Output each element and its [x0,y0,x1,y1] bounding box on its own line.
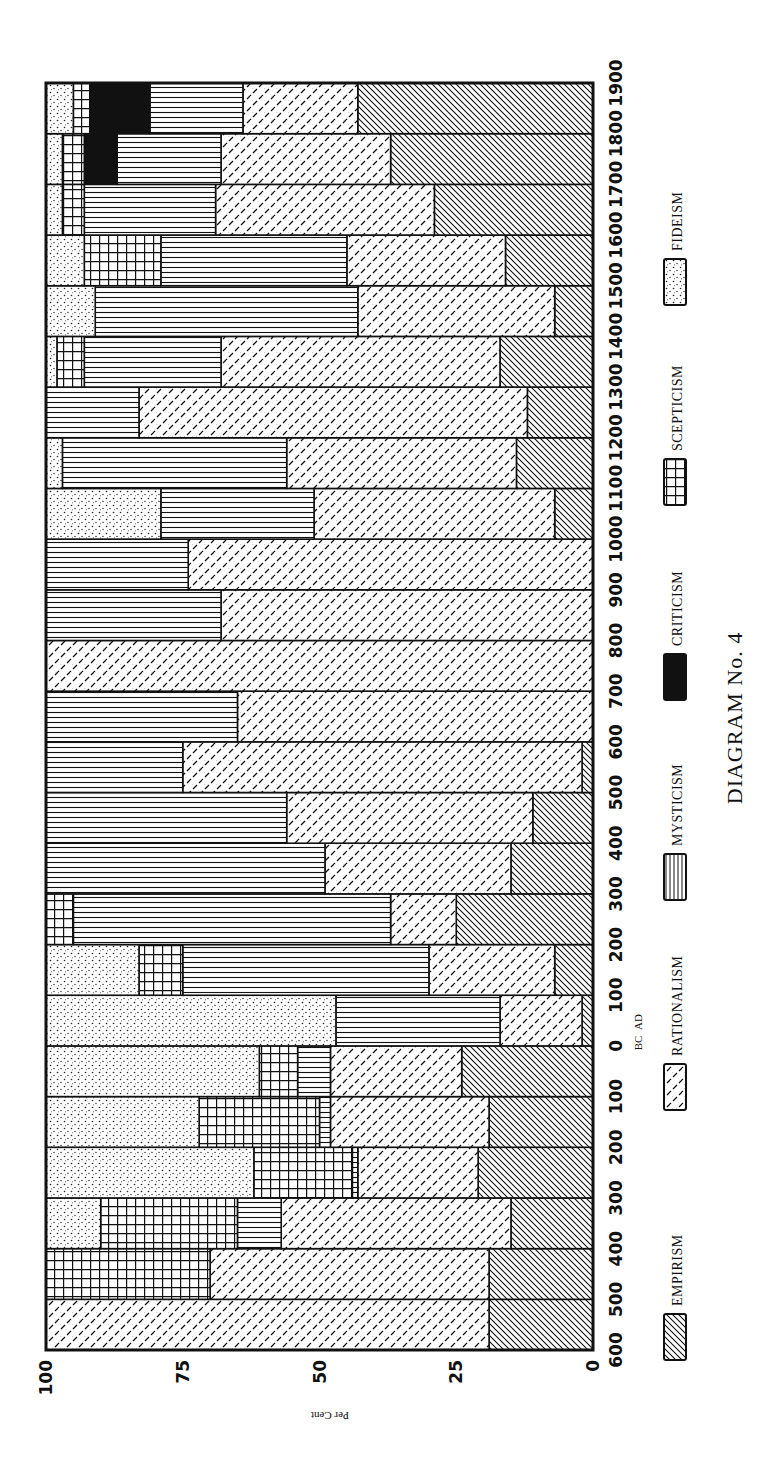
bar-segment-empirism [434,184,593,235]
bar-segment-fideism [46,995,336,1046]
century-tick-label: 900 [606,572,626,608]
bar-segment-fideism [46,1147,254,1198]
bar-segment-fideism [46,945,139,996]
legend-swatch [664,1064,686,1110]
bar-row [46,539,593,590]
bar-segment-rationalism [46,640,593,691]
century-tick-label: 500 [606,775,626,811]
century-tick-label: 1000 [606,515,626,562]
bar-segment-rationalism [237,691,593,742]
bar-segment-rationalism [188,539,593,590]
legend-item-mysticism: MYSTICISM [664,764,686,900]
bar-segment-criticism [90,83,150,134]
bar-segment-rationalism [347,235,506,286]
century-tick-label: 1500 [606,262,626,309]
bar-segment-empirism [489,1097,593,1148]
bar-segment-rationalism [287,793,533,844]
bar-segment-mysticism [46,539,188,590]
bar-segment-scepticism [139,945,183,996]
bar-segment-rationalism [46,1299,489,1350]
legend-label: CRITICISM [670,571,685,646]
bar-segment-empirism [489,1299,593,1350]
bar-row [46,83,593,134]
bar-segment-fideism [46,336,57,387]
percent-tick-label: 50 [310,1360,330,1384]
bar-row [46,488,593,539]
bar-segment-mysticism [150,83,243,134]
bar-segment-empirism [582,995,593,1046]
bar-row [46,590,593,641]
bar-segment-empirism [582,742,593,793]
bar-segment-empirism [358,83,593,134]
bar-segment-mysticism [46,387,139,438]
bar-segment-rationalism [429,945,555,996]
bar-row [46,843,593,894]
bar-segment-scepticism [62,184,84,235]
century-tick-label: 200 [606,927,626,963]
bar-row [46,286,593,337]
bar-segment-empirism [511,1198,593,1249]
bar-segment-scepticism [73,83,89,134]
diagram-chart: 6005004003002001000100200300400500600700… [0,0,778,1457]
bar-segment-mysticism [161,235,347,286]
bar-segment-fideism [46,83,73,134]
century-tick-label: 700 [606,673,626,709]
percent-tick-label: 75 [173,1360,193,1384]
bar-segment-fideism [46,286,95,337]
bar-row [46,235,593,286]
bar-segment-rationalism [210,1249,489,1300]
bar-segment-rationalism [243,83,358,134]
bar-segment-scepticism [46,1249,210,1300]
bar-row [46,793,593,844]
bar-segment-rationalism [330,1046,461,1097]
legend-item-rationalism: RATIONALISM [664,956,686,1110]
bar-segment-rationalism [330,1097,489,1148]
bar-row [46,1249,593,1300]
bar-segment-rationalism [325,843,511,894]
legend: EMPIRISMRATIONALISMMYSTICISMCRITICISMSCE… [664,191,686,1360]
bar-segment-rationalism [221,134,391,185]
century-axis: 6005004003002001000100200300400500600700… [606,59,626,1368]
bar-segment-mysticism [352,1147,357,1198]
bar-segment-rationalism [221,336,500,387]
bar-segment-mysticism [298,1046,331,1097]
bar-segment-empirism [555,945,593,996]
bar-segment-mysticism [183,945,429,996]
legend-swatch [664,259,686,305]
bar-segment-mysticism [46,691,237,742]
bar-row [46,1097,593,1148]
bar-segment-rationalism [358,1147,478,1198]
bar-segment-empirism [462,1046,593,1097]
bar-segment-mysticism [117,134,221,185]
bar-segment-rationalism [281,1198,511,1249]
bar-segment-fideism [46,134,62,185]
percent-tick-label: 100 [36,1360,56,1396]
bar-segment-mysticism [73,894,390,945]
century-tick-label: 300 [606,1180,626,1216]
bar-segment-scepticism [259,1046,297,1097]
century-tick-label: 100 [606,977,626,1013]
bar-segment-fideism [46,438,62,489]
percent-tick-label: 25 [446,1360,466,1384]
century-tick-label: 400 [606,825,626,861]
bar-segment-empirism [511,843,593,894]
bar-segment-empirism [505,235,593,286]
century-tick-label: 1700 [606,161,626,208]
legend-label: MYSTICISM [670,764,685,846]
bar-segment-rationalism [287,438,517,489]
bar-row [46,1046,593,1097]
bar-segment-scepticism [57,336,84,387]
bar-segment-empirism [516,438,593,489]
century-tick-label: 600 [606,1332,626,1368]
bar-segment-fideism [46,184,62,235]
bar-row [46,1147,593,1198]
bar-segment-rationalism [358,286,555,337]
bar-segment-mysticism [46,590,221,641]
percent-axis-title: Per Cent [311,1410,349,1422]
bar-row [46,1198,593,1249]
bar-segment-scepticism [254,1147,352,1198]
legend-label: RATIONALISM [670,956,685,1056]
bar-segment-rationalism [183,742,582,793]
bar-segment-empirism [456,894,593,945]
legend-swatch [664,654,686,700]
